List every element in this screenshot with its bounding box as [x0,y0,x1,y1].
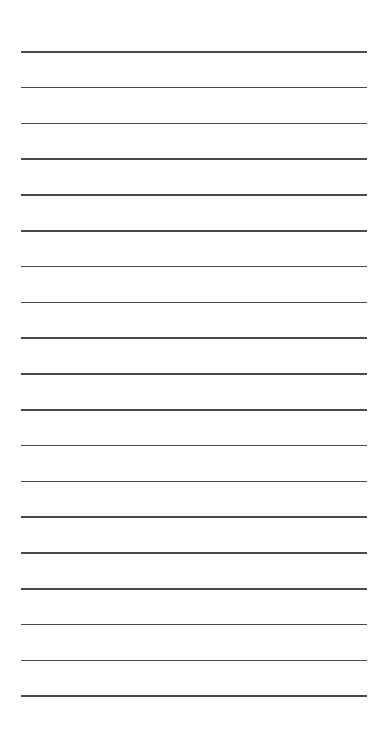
ruled-line [21,302,367,304]
ruled-line [21,194,367,196]
ruled-line [21,588,367,590]
ruled-line [21,337,367,339]
ruled-line [21,409,367,411]
ruled-line [21,230,367,232]
ruled-line [21,695,367,697]
ruled-line [21,516,367,518]
ruled-line [21,552,367,554]
ruled-line [21,481,367,483]
ruled-line [21,87,367,89]
ruled-line [21,266,367,268]
lined-paper-sheet [0,0,379,745]
ruled-line [21,123,367,125]
ruled-line [21,445,367,447]
ruled-line [21,51,367,53]
ruled-line [21,660,367,662]
ruled-line [21,158,367,160]
ruled-line [21,624,367,626]
ruled-line [21,373,367,375]
